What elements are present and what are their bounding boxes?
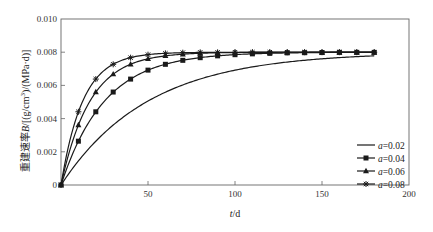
y-axis-label-tail: )/(MPa·d)] [20,50,31,93]
x-tick-label: 100 [228,189,242,199]
svg-text:a=0.06: a=0.06 [378,167,405,177]
y-tick-label: 0.002 [37,147,57,157]
x-tick-label: 50 [144,189,154,199]
y-tick-label: 0.006 [37,80,58,90]
svg-text:a=0.04: a=0.04 [378,154,405,164]
svg-text:a=0.08: a=0.08 [378,180,405,190]
x-tick-label: 150 [315,189,329,199]
y-tick-label: 0 [53,180,58,190]
y-axis-label-sup: 3 [19,93,27,97]
x-axis-label: t/d [230,208,241,219]
y-axis-label-var: B [20,126,31,132]
y-tick-label: 0.004 [37,114,58,124]
y-axis-label-unit: /[(g/cm [20,96,31,125]
chart: 00.0020.0040.0060.0080.010 50100150200 a… [0,0,433,232]
x-tick-label: 200 [402,189,416,199]
y-axis-label-prefix: 重建速率 [20,132,31,172]
y-tick-label: 0.010 [37,14,58,24]
plot-frame [61,19,409,185]
y-axis-label: 重建速率B/[(g/cm3)/(MPa·d)] [17,50,32,172]
y-tick-label: 0.008 [37,47,58,57]
x-axis-label-unit: /d [233,208,241,219]
svg-text:a=0.02: a=0.02 [378,141,405,151]
